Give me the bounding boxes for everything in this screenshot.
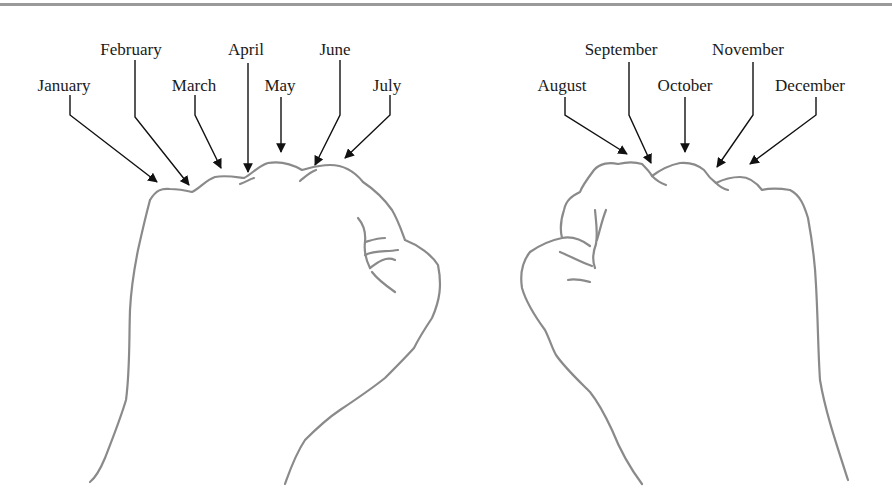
arrow-june: [315, 60, 340, 165]
arrow-november: [717, 62, 753, 167]
arrow-july: [345, 95, 390, 158]
arrow-august: [565, 97, 627, 154]
arrow-december: [750, 97, 816, 164]
arrow-february: [135, 60, 189, 185]
fist-diagram: [0, 0, 892, 501]
right-fist-outline: [521, 163, 848, 485]
left-fist-outline: [90, 162, 440, 484]
arrow-january: [70, 95, 157, 182]
arrow-march: [195, 95, 221, 168]
arrow-september: [629, 62, 651, 163]
right-arrows: [565, 62, 816, 167]
